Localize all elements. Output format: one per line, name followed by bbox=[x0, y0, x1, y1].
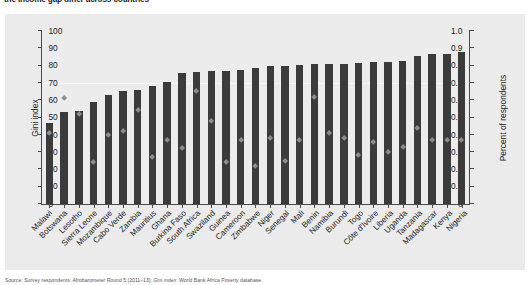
gini-bar bbox=[370, 62, 377, 204]
right-tick-mark bbox=[469, 186, 474, 187]
gini-bar bbox=[105, 95, 112, 204]
gini-bar bbox=[355, 63, 362, 204]
bar-slot bbox=[410, 31, 425, 204]
bar-slot bbox=[440, 31, 455, 204]
right-tick-mark bbox=[469, 134, 474, 135]
bar-slot bbox=[175, 31, 190, 204]
bar-slot bbox=[366, 31, 381, 204]
right-tick-mark bbox=[469, 117, 474, 118]
bar-slot bbox=[160, 31, 175, 204]
right-axis-title: Percent of respondents bbox=[499, 74, 509, 161]
gini-bar bbox=[384, 62, 391, 204]
bar-slot bbox=[248, 31, 263, 204]
bar-slot bbox=[351, 31, 366, 204]
category-axis-labels: MalawiBotswanaLesothoSierra LeoneMozambi… bbox=[41, 205, 470, 267]
bar-slot bbox=[425, 31, 440, 204]
respondent-marker bbox=[61, 95, 67, 101]
gini-bar bbox=[178, 73, 185, 204]
right-tick-mark bbox=[469, 82, 474, 83]
source-note: Source: Survey respondents: Afrobaromete… bbox=[5, 277, 263, 283]
bar-slot bbox=[57, 31, 72, 204]
right-tick-mark bbox=[469, 30, 474, 31]
bar-slot bbox=[336, 31, 351, 204]
bar-slot bbox=[71, 31, 86, 204]
bar-slot bbox=[233, 31, 248, 204]
gini-bar bbox=[296, 65, 303, 204]
gini-bar bbox=[428, 54, 435, 204]
figure-title: the income gap differ across countries bbox=[4, 0, 149, 4]
gini-bar bbox=[252, 68, 259, 204]
right-tick-mark bbox=[469, 168, 474, 169]
bar-slot bbox=[263, 31, 278, 204]
bar-slot bbox=[322, 31, 337, 204]
chart-panel: Gini index Percent of respondents 00.10.… bbox=[5, 14, 525, 270]
gini-bar bbox=[443, 54, 450, 204]
bar-slot bbox=[278, 31, 293, 204]
bar-slot bbox=[307, 31, 322, 204]
bar-slot bbox=[189, 31, 204, 204]
bar-slot bbox=[42, 31, 57, 204]
left-axis-title: Gini index bbox=[30, 99, 40, 136]
figure-container: the income gap differ across countries G… bbox=[0, 0, 530, 285]
right-tick-mark bbox=[469, 65, 474, 66]
gini-bar bbox=[311, 64, 318, 204]
bar-slot bbox=[292, 31, 307, 204]
bar-slot bbox=[101, 31, 116, 204]
gini-bar bbox=[60, 112, 67, 204]
bar-slot bbox=[454, 31, 469, 204]
right-tick-mark bbox=[469, 47, 474, 48]
bar-slot bbox=[381, 31, 396, 204]
right-tick-mark bbox=[469, 99, 474, 100]
right-tick-mark bbox=[469, 151, 474, 152]
bar-slot bbox=[86, 31, 101, 204]
